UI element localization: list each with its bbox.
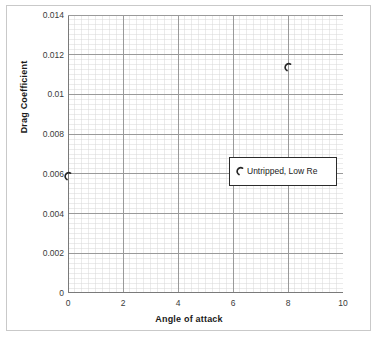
legend-marker-icon — [235, 166, 246, 177]
y-tick-label: 0.004 — [18, 210, 64, 219]
x-axis-title: Angle of attack — [0, 314, 378, 324]
x-tick-label: 8 — [268, 299, 308, 308]
data-point-marker — [63, 168, 74, 179]
data-point-marker — [283, 59, 294, 70]
y-tick-label: 0.002 — [18, 249, 64, 258]
x-tick-label: 10 — [323, 299, 363, 308]
y-tick-label: 0 — [18, 289, 64, 298]
y-tick-label: 0.006 — [18, 170, 64, 179]
y-axis-title: Drag Coefficient — [19, 27, 29, 167]
x-axis-tick-labels: 0246810 — [68, 299, 343, 313]
x-tick-label: 2 — [103, 299, 143, 308]
legend-entry-label: Untripped, Low Re — [247, 167, 317, 176]
grid-lines — [68, 15, 343, 293]
x-tick-label: 4 — [158, 299, 198, 308]
y-tick-label: 0.014 — [18, 11, 64, 20]
x-tick-label: 0 — [48, 299, 88, 308]
legend: Untripped, Low Re — [229, 157, 337, 186]
x-tick-label: 6 — [213, 299, 253, 308]
chart-figure: 00.0020.0040.0060.0080.010.0120.014 Drag… — [0, 0, 378, 338]
plot-area — [68, 15, 343, 293]
